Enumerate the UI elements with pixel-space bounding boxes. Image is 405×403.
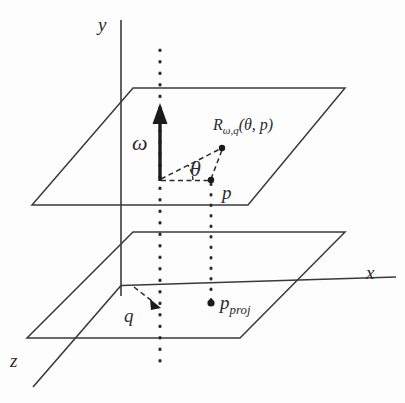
p-label: p bbox=[222, 182, 232, 204]
z-axis-label: z bbox=[10, 350, 17, 372]
diagram-canvas bbox=[0, 0, 405, 403]
y-axis-label: y bbox=[98, 14, 106, 36]
point-p-proj bbox=[207, 299, 214, 306]
theta-label: θ bbox=[190, 156, 201, 182]
dashed-segment-p-to-rotated-point bbox=[211, 150, 222, 179]
x-axis-label: x bbox=[366, 262, 374, 284]
q-label: q bbox=[124, 305, 134, 327]
point-rotated bbox=[219, 145, 225, 151]
rotation-base: R bbox=[213, 116, 223, 133]
omega-label: ω bbox=[132, 130, 148, 156]
rotation-label: Rω,q(θ, p) bbox=[213, 116, 273, 136]
p-proj-base: p bbox=[220, 292, 230, 313]
lower-plane bbox=[27, 232, 345, 338]
omega-vector-arrowhead bbox=[153, 103, 168, 124]
rotation-arguments: (θ, p) bbox=[239, 116, 274, 133]
q-vector-shaft bbox=[134, 287, 152, 301]
rotation-diagram: y x z ω θ p q pproj Rω,q(θ, p) bbox=[0, 0, 405, 403]
point-p bbox=[208, 177, 214, 183]
z-axis-line bbox=[33, 286, 121, 388]
rotation-subscript: ω,q bbox=[223, 124, 239, 136]
x-axis-line bbox=[121, 277, 396, 286]
p-proj-subscript: proj bbox=[230, 302, 251, 317]
p-proj-label: pproj bbox=[220, 292, 251, 318]
upper-plane bbox=[32, 88, 345, 205]
